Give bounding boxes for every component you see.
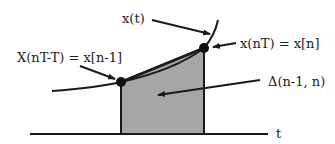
curve-label: x(t) xyxy=(122,11,145,26)
left-sample-arrow xyxy=(80,66,115,79)
right-sample-point xyxy=(199,43,209,53)
left-sample-label: X(nT-T) = x[n-1] xyxy=(17,50,122,65)
right-sample-label: x(nT) = x[n] xyxy=(240,36,320,51)
axis-label: t xyxy=(276,126,282,141)
area-label: Δ(n-1, n) xyxy=(268,74,325,89)
curve-label-arrow xyxy=(152,20,210,34)
right-sample-arrow xyxy=(213,43,236,47)
trapezoid-diagram: x(t) X(nT-T) = x[n-1] x(nT) = x[n] Δ(n-1… xyxy=(0,0,335,144)
left-sample-point xyxy=(116,77,126,87)
